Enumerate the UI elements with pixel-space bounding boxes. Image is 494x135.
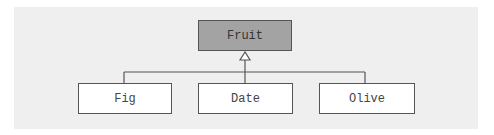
class-box-fruit[interactable]: Fruit	[198, 20, 292, 51]
class-label: Date	[231, 92, 260, 106]
class-box-date[interactable]: Date	[198, 83, 293, 114]
class-label: Fruit	[227, 29, 263, 43]
class-label: Olive	[349, 92, 385, 106]
class-box-fig[interactable]: Fig	[78, 83, 172, 114]
class-box-olive[interactable]: Olive	[319, 83, 415, 114]
generalization-arrow-icon	[240, 52, 250, 60]
class-label: Fig	[114, 92, 136, 106]
